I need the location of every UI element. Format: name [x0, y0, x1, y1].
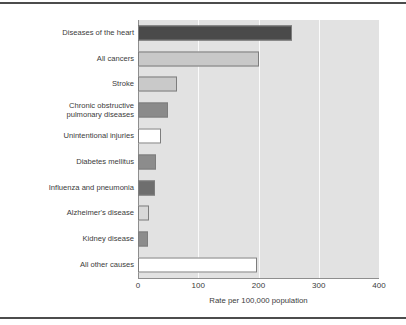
- chart-row: All cancers: [0, 46, 406, 72]
- chart-row: Influenza and pneumonia: [0, 175, 406, 201]
- category-label: Diseases of the heart: [8, 28, 134, 37]
- chart-row: Diabetes mellitus: [0, 149, 406, 175]
- category-label: All other causes: [8, 260, 134, 269]
- category-label: Unintentional injuries: [8, 131, 134, 140]
- x-tick-label: 100: [178, 281, 218, 290]
- bar: [138, 180, 155, 195]
- category-label: Diabetes mellitus: [8, 157, 134, 166]
- category-label: Chronic obstructive pulmonary diseases: [8, 101, 134, 119]
- bottom-rule: [0, 317, 406, 319]
- bar: [138, 103, 168, 118]
- bar: [138, 232, 148, 247]
- x-axis-line: [138, 278, 379, 279]
- chart-row: Alzheimer's disease: [0, 201, 406, 227]
- category-label: Kidney disease: [8, 235, 134, 244]
- bar: [138, 154, 156, 169]
- bar: [138, 129, 161, 144]
- chart-row: All other causes: [0, 252, 406, 278]
- top-rule: [0, 2, 406, 4]
- chart-row: Chronic obstructive pulmonary diseases: [0, 97, 406, 123]
- category-label: All cancers: [8, 54, 134, 63]
- category-label: Influenza and pneumonia: [8, 183, 134, 192]
- chart-row: Diseases of the heart: [0, 20, 406, 46]
- bar: [138, 77, 177, 92]
- category-label: Stroke: [8, 80, 134, 89]
- x-tick-label: 300: [299, 281, 339, 290]
- bar: [138, 258, 257, 273]
- x-tick-label: 0: [118, 281, 158, 290]
- x-axis-title: Rate per 100,000 population: [138, 296, 379, 305]
- chart-row: Kidney disease: [0, 226, 406, 252]
- x-tick-label: 400: [359, 281, 399, 290]
- x-tick-label: 200: [239, 281, 279, 290]
- chart-row: Unintentional injuries: [0, 123, 406, 149]
- bar: [138, 51, 259, 66]
- chart-row: Stroke: [0, 72, 406, 98]
- bar: [138, 206, 149, 221]
- bar: [138, 25, 292, 40]
- chart-figure: Diseases of the heartAll cancersStrokeCh…: [0, 0, 406, 325]
- category-label: Alzheimer's disease: [8, 209, 134, 218]
